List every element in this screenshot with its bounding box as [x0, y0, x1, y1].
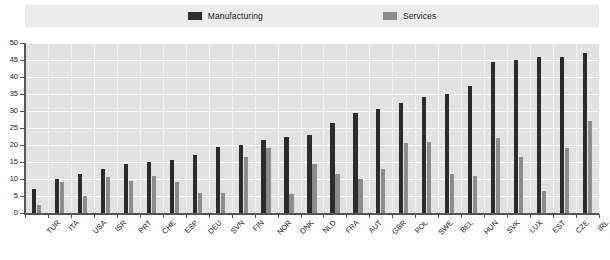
legend-label-manufacturing: Manufacturing: [208, 12, 263, 21]
bar-manufacturing: [514, 60, 518, 213]
bar-manufacturing: [239, 145, 243, 213]
bar-services: [83, 196, 87, 213]
bar-group: [346, 43, 369, 213]
x-axis-tick: [48, 214, 49, 218]
bar-manufacturing: [307, 135, 311, 213]
bar-services: [198, 193, 202, 213]
x-axis-tick: [599, 214, 600, 218]
bar-manufacturing: [193, 155, 197, 213]
x-axis-tick-label: FIN: [252, 219, 266, 233]
y-axis-tick-label: 45: [0, 56, 18, 64]
x-axis-tick-label: SWE: [437, 219, 454, 236]
bar-manufacturing: [468, 86, 472, 214]
x-axis-labels: TURITAUSAISRPRTCHEESPDEUSVNFINNORDNKNLDF…: [25, 219, 599, 260]
y-axis-tick-label: 30: [0, 107, 18, 115]
bar-services: [175, 182, 179, 213]
x-axis-tick-label: TUR: [46, 219, 62, 235]
bar-manufacturing: [261, 140, 265, 213]
bar-services: [37, 205, 41, 214]
bar-group: [461, 43, 484, 213]
bar-manufacturing: [491, 62, 495, 213]
x-axis-tick-label: GBR: [391, 219, 408, 236]
bar-manufacturing: [284, 137, 288, 214]
bar-services: [404, 143, 408, 213]
x-axis-tick-label: SVN: [230, 219, 246, 235]
bar-manufacturing: [170, 160, 174, 213]
chart-legend: Manufacturing Services: [25, 5, 599, 27]
bar-services: [129, 181, 133, 213]
x-axis-tick: [71, 214, 72, 218]
bars-layer: [25, 43, 599, 213]
bar-services: [542, 191, 546, 213]
bar-manufacturing: [55, 179, 59, 213]
x-axis-tick-label: ESP: [184, 219, 200, 235]
x-axis-tick: [576, 214, 577, 218]
bar-services: [289, 194, 293, 213]
bar-manufacturing: [583, 53, 587, 213]
bar-group: [48, 43, 71, 213]
bar-manufacturing: [353, 113, 357, 213]
bar-group: [484, 43, 507, 213]
y-axis-tick-label: 40: [0, 73, 18, 81]
x-axis-tick: [163, 214, 164, 218]
y-axis-tick-label: 50: [0, 39, 18, 47]
x-axis-tick: [232, 214, 233, 218]
x-axis-tick-label: FRA: [344, 219, 360, 235]
bar-manufacturing: [445, 94, 449, 213]
x-axis-tick: [346, 214, 347, 218]
bar-services: [519, 157, 523, 213]
bar-manufacturing: [32, 189, 36, 213]
bar-services: [266, 148, 270, 213]
bar-manufacturing: [376, 109, 380, 213]
y-axis-tick-label: 25: [0, 124, 18, 132]
x-axis-tick: [94, 214, 95, 218]
bar-manufacturing: [216, 147, 220, 213]
x-axis-tick-label: EST: [551, 219, 567, 235]
x-axis-tick: [484, 214, 485, 218]
bar-manufacturing: [124, 164, 128, 213]
bar-group: [323, 43, 346, 213]
bar-group: [415, 43, 438, 213]
bar-group: [25, 43, 48, 213]
bar-group: [117, 43, 140, 213]
x-axis-tick-label: AUT: [367, 219, 383, 235]
x-axis-tick-label: ITA: [68, 219, 81, 232]
x-axis-tick-label: SVK: [505, 219, 521, 235]
x-axis-tick: [140, 214, 141, 218]
bar-services: [450, 174, 454, 213]
x-axis-tick-label: DNK: [299, 219, 316, 236]
bar-services: [60, 182, 64, 213]
x-axis-tick-label: NLD: [321, 219, 337, 235]
x-axis-tick: [369, 214, 370, 218]
bar-group: [369, 43, 392, 213]
y-axis-tick-label: 10: [0, 175, 18, 183]
x-axis-tick-label: CHE: [161, 219, 178, 236]
bar-group: [530, 43, 553, 213]
bar-services: [473, 176, 477, 213]
bar-group: [71, 43, 94, 213]
bar-services: [221, 193, 225, 213]
bar-services: [106, 177, 110, 213]
x-axis-tick: [553, 214, 554, 218]
bar-group: [301, 43, 324, 213]
bar-services: [244, 157, 248, 213]
x-axis-tick-label: LUX: [528, 219, 544, 235]
bar-manufacturing: [399, 103, 403, 214]
y-axis-tick-label: 35: [0, 90, 18, 98]
bar-group: [553, 43, 576, 213]
x-axis-tick-label: USA: [92, 219, 108, 235]
x-axis-tick: [507, 214, 508, 218]
x-axis-tick: [278, 214, 279, 218]
bar-services: [152, 176, 156, 213]
x-axis-tick: [301, 214, 302, 218]
bar-manufacturing: [147, 162, 151, 213]
bar-group: [232, 43, 255, 213]
y-axis-tick-label: 15: [0, 158, 18, 166]
bar-group: [186, 43, 209, 213]
x-axis-tick: [117, 214, 118, 218]
x-axis-tick: [209, 214, 210, 218]
bar-services: [312, 164, 316, 213]
bar-group: [163, 43, 186, 213]
x-axis-tick-label: PRT: [138, 219, 154, 235]
bar-group: [94, 43, 117, 213]
